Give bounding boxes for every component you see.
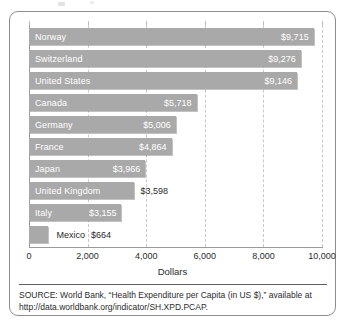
bar-row: France$4,864 xyxy=(29,138,322,155)
bar-row: Japan$3,966 xyxy=(29,160,322,177)
bar-value-label: $4,864 xyxy=(139,142,167,152)
bar-series: Norway$9,715Switzerland$9,276United Stat… xyxy=(29,25,322,247)
bar: Canada$5,718 xyxy=(29,94,197,111)
bar-category-label: Canada xyxy=(35,98,67,108)
bar-category-label: Italy xyxy=(35,208,52,218)
bar: France$4,864 xyxy=(29,138,172,155)
tick-mark xyxy=(322,21,323,25)
bar-value-label: $9,715 xyxy=(281,32,309,42)
bar: United Kingdom xyxy=(29,182,134,199)
bar-value-label: $5,718 xyxy=(164,98,192,108)
bar-row: Italy$3,155 xyxy=(29,204,322,221)
bar-value-label: $3,966 xyxy=(113,164,141,174)
x-axis-line xyxy=(29,247,323,248)
bar-category-label: France xyxy=(35,142,64,152)
bar xyxy=(29,226,48,243)
bar: Switzerland$9,276 xyxy=(29,50,301,67)
source-divider xyxy=(19,284,327,285)
bar-row: Germany$5,006 xyxy=(29,116,322,133)
bar-value-label: $3,155 xyxy=(89,208,117,218)
x-axis-tick-label: 10,000 xyxy=(308,251,336,261)
bar-row: United States$9,146 xyxy=(29,72,322,89)
bar-row: Norway$9,715 xyxy=(29,28,322,45)
x-axis-tick-label: 4,000 xyxy=(135,251,158,261)
bar-row: Mexico$664 xyxy=(29,226,322,243)
plot-area: Norway$9,715Switzerland$9,276United Stat… xyxy=(10,12,335,257)
bar-row: Switzerland$9,276 xyxy=(29,50,322,67)
x-axis-tick-label: 8,000 xyxy=(252,251,275,261)
bar-value-label: $5,006 xyxy=(143,120,171,130)
scan-artifact-secondary xyxy=(90,1,94,4)
scan-artifact xyxy=(58,2,65,6)
bar-value-label: $664 xyxy=(91,230,111,240)
bar-value-label: $3,598 xyxy=(140,186,168,196)
gridline xyxy=(322,25,323,247)
bar-category-label: Norway xyxy=(35,32,66,42)
bar-category-label: Germany xyxy=(35,120,73,130)
bar-category-label: United Kingdom xyxy=(35,186,100,196)
bar-category-label: Japan xyxy=(35,164,60,174)
figure-frame: Norway$9,715Switzerland$9,276United Stat… xyxy=(9,11,336,316)
bar-value-label: $9,276 xyxy=(268,54,296,64)
bar: Japan$3,966 xyxy=(29,160,145,177)
x-axis-tick-label: 6,000 xyxy=(194,251,217,261)
bar-category-label: Switzerland xyxy=(35,54,83,64)
bar-category-label: Mexico xyxy=(56,230,85,240)
bar: Germany$5,006 xyxy=(29,116,176,133)
x-axis-tick-label: 0 xyxy=(26,251,31,261)
bar-category-label: United States xyxy=(35,76,90,86)
bar-value-label: $9,146 xyxy=(264,76,292,86)
source-note: SOURCE: World Bank, “Health Expenditure … xyxy=(19,289,329,313)
bar: Italy$3,155 xyxy=(29,204,121,221)
x-axis-title: Dollars xyxy=(10,266,335,277)
bar: United States$9,146 xyxy=(29,72,297,89)
bar-row: Canada$5,718 xyxy=(29,94,322,111)
bar: Norway$9,715 xyxy=(29,28,314,45)
x-axis-tick-label: 2,000 xyxy=(76,251,99,261)
bar-row: United Kingdom$3,598 xyxy=(29,182,322,199)
plot-canvas: Norway$9,715Switzerland$9,276United Stat… xyxy=(29,25,322,247)
